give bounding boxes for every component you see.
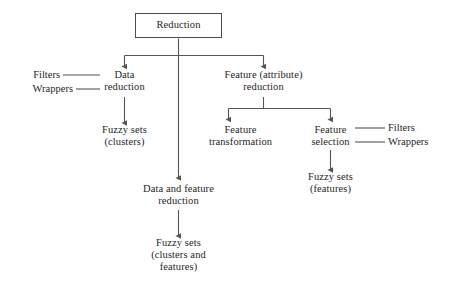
label-right-wrappers-text: Wrappers (388, 136, 428, 147)
node-fuzzy-sets-clusters[interactable]: Fuzzy sets (clusters) (84, 124, 165, 148)
node-fuzzy-sets-clusters-features[interactable]: Fuzzy sets (clusters and features) (123, 237, 234, 274)
node-fuzzy-sets-clusters-line2: (clusters) (84, 136, 165, 148)
node-reduction[interactable]: Reduction (135, 13, 222, 38)
node-data-reduction-line1: Data (84, 69, 165, 81)
diagram-canvas: Reduction Filters Wrappers Data reductio… (0, 0, 449, 287)
node-feature-transformation-line2: transformation (196, 136, 285, 148)
label-right-wrappers: Wrappers (388, 136, 449, 148)
node-feature-selection[interactable]: Feature selection (296, 124, 365, 148)
label-left-wrappers-text: Wrappers (33, 83, 73, 94)
node-data-and-feature-reduction[interactable]: Data and feature reduction (123, 183, 234, 207)
label-left-filters-text: Filters (33, 69, 60, 80)
node-data-and-feature-reduction-line2: reduction (123, 195, 234, 207)
label-right-filters: Filters (388, 122, 448, 134)
node-fuzzy-sets-features-line1: Fuzzy sets (290, 171, 371, 183)
node-data-reduction[interactable]: Data reduction (84, 69, 165, 93)
node-feature-selection-line2: selection (296, 136, 365, 148)
label-right-filters-text: Filters (388, 122, 415, 133)
node-feature-reduction-line2: reduction (203, 81, 324, 93)
node-feature-selection-line1: Feature (296, 124, 365, 136)
node-fuzzy-sets-features-line2: (features) (290, 183, 371, 195)
node-fuzzy-sets-clusters-features-line1: Fuzzy sets (123, 237, 234, 249)
node-feature-transformation[interactable]: Feature transformation (196, 124, 285, 148)
node-feature-transformation-line1: Feature (196, 124, 285, 136)
node-data-and-feature-reduction-line1: Data and feature (123, 183, 234, 195)
node-fuzzy-sets-clusters-features-line3: features) (123, 261, 234, 273)
label-left-filters: Filters (0, 69, 60, 81)
node-fuzzy-sets-features[interactable]: Fuzzy sets (features) (290, 171, 371, 195)
node-reduction-label: Reduction (156, 19, 200, 31)
node-fuzzy-sets-clusters-features-line2: (clusters and (123, 249, 234, 261)
label-left-wrappers: Wrappers (0, 83, 73, 95)
node-feature-reduction-line1: Feature (attribute) (203, 69, 324, 81)
node-feature-reduction[interactable]: Feature (attribute) reduction (203, 69, 324, 93)
node-data-reduction-line2: reduction (84, 81, 165, 93)
node-fuzzy-sets-clusters-line1: Fuzzy sets (84, 124, 165, 136)
